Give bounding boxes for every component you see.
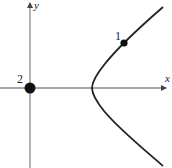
point-2-label: 2	[17, 72, 23, 86]
y-axis-label: y	[33, 0, 39, 11]
point-2-marker	[25, 83, 36, 94]
hyperbola-curve	[92, 7, 163, 166]
point-1-marker	[120, 39, 127, 46]
point-1-label: 1	[115, 29, 121, 43]
x-axis-label: x	[164, 72, 170, 84]
hyperbola-diagram: x y 1 2	[0, 0, 172, 168]
